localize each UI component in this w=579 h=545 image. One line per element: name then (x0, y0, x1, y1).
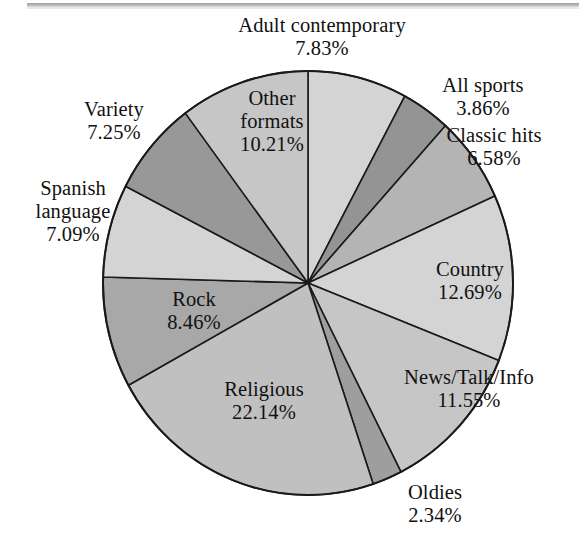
slice-label-value: 6.58% (414, 147, 574, 170)
slice-label-name: Variety (52, 98, 176, 121)
slice-label-value: 11.55% (376, 389, 562, 412)
slice-label-other-formats: Other formats 10.21% (216, 87, 328, 156)
slice-label-value: 7.83% (214, 37, 430, 60)
pie-chart: Adult contemporary 7.83% All sports 3.86… (0, 0, 579, 545)
slice-label-name: Adult contemporary (214, 14, 430, 37)
slice-label-name-line1: Other (216, 87, 328, 110)
slice-label-rock: Rock 8.46% (140, 288, 248, 334)
slice-label-name-line2: formats (216, 110, 328, 133)
slice-label-name: Religious (198, 378, 330, 401)
slice-label-name-line1: Spanish (12, 177, 134, 200)
slice-label-classic-hits: Classic hits 6.58% (414, 124, 574, 170)
slice-label-religious: Religious 22.14% (198, 378, 330, 424)
slice-label-value: 8.46% (140, 311, 248, 334)
slice-label-spanish-language: Spanish language 7.09% (12, 177, 134, 246)
slice-label-adult-contemporary: Adult contemporary 7.83% (214, 14, 430, 60)
slice-label-name: Oldies (380, 481, 490, 504)
slice-label-name: News/Talk/Info (376, 366, 562, 389)
slice-label-name: All sports (408, 74, 558, 97)
slice-label-value: 7.25% (52, 121, 176, 144)
slice-label-name: Rock (140, 288, 248, 311)
slice-label-all-sports: All sports 3.86% (408, 74, 558, 120)
slice-label-value: 7.09% (12, 223, 134, 246)
slice-label-news-talk-info: News/Talk/Info 11.55% (376, 366, 562, 412)
slice-label-oldies: Oldies 2.34% (380, 481, 490, 527)
slice-label-name-line2: language (12, 200, 134, 223)
slice-label-value: 3.86% (408, 97, 558, 120)
slice-label-value: 22.14% (198, 401, 330, 424)
slice-label-name: Classic hits (414, 124, 574, 147)
slice-label-value: 10.21% (216, 133, 328, 156)
slice-label-country: Country 12.69% (400, 258, 540, 304)
slice-label-name: Country (400, 258, 540, 281)
slice-label-variety: Variety 7.25% (52, 98, 176, 144)
slice-label-value: 2.34% (380, 504, 490, 527)
slice-label-value: 12.69% (400, 281, 540, 304)
